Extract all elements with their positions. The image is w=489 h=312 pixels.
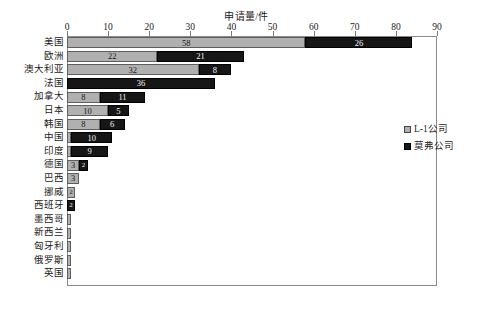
stacked-bar[interactable]: 86: [67, 119, 125, 130]
legend-item[interactable]: 莫弗公司: [404, 139, 454, 153]
bar-segment[interactable]: 36: [67, 78, 215, 89]
black-swatch-icon: [404, 143, 411, 150]
bar-segment[interactable]: [67, 214, 71, 225]
bar-segment[interactable]: 10: [71, 132, 112, 143]
x-tick-label: 50: [268, 22, 278, 32]
stacked-bar[interactable]: 811: [67, 92, 145, 103]
category-label: 英国: [0, 267, 64, 281]
bar-segment[interactable]: 3: [67, 173, 79, 184]
bar-value-label: 32: [129, 66, 138, 75]
bar-segment[interactable]: 3: [67, 160, 79, 171]
category-label: 加拿大: [0, 90, 64, 104]
x-tick-label: 10: [103, 22, 113, 32]
stacked-bar[interactable]: 2: [67, 200, 75, 211]
bar-row: 挪威2: [0, 186, 489, 200]
stacked-bar[interactable]: 3: [67, 173, 79, 184]
bar-value-label: 3: [71, 161, 75, 170]
bar-segment[interactable]: 26: [305, 37, 412, 48]
stacked-bar[interactable]: 328: [67, 64, 231, 75]
stacked-bar[interactable]: 105: [67, 105, 129, 116]
bar-segment[interactable]: [67, 228, 71, 239]
bar-row: 欧洲2221: [0, 50, 489, 64]
bar-segment[interactable]: 11: [100, 92, 145, 103]
bar-segment[interactable]: 5: [108, 105, 129, 116]
category-label: 俄罗斯: [0, 254, 64, 268]
stacked-bar[interactable]: 9: [67, 146, 108, 157]
bar-segment[interactable]: 2: [67, 187, 75, 198]
bar-value-label: 8: [213, 66, 217, 75]
bar-segment[interactable]: 8: [67, 119, 100, 130]
chart-legend: L-1公司 莫弗公司: [404, 122, 454, 156]
x-axis-title: 申请量/件: [0, 8, 489, 23]
stacked-bar[interactable]: [67, 268, 71, 279]
x-tick-label: 60: [309, 22, 319, 32]
x-tick-label: 30: [186, 22, 196, 32]
bar-value-label: 2: [69, 202, 73, 209]
x-axis-title-text: 申请量/件: [224, 11, 268, 22]
legend-item-label: 莫弗公司: [414, 139, 454, 153]
category-label: 韩国: [0, 118, 64, 132]
bar-value-label: 8: [81, 93, 85, 102]
stacked-bar[interactable]: [67, 241, 71, 252]
bar-value-label: 2: [82, 162, 86, 169]
legend-item[interactable]: L-1公司: [404, 122, 454, 136]
bar-value-label: 3: [71, 174, 75, 183]
stacked-bar[interactable]: 5826: [67, 37, 412, 48]
bar-value-label: 36: [137, 79, 146, 88]
bar-row: 日本105: [0, 104, 489, 118]
stacked-bar[interactable]: 36: [67, 78, 215, 89]
category-label: 德国: [0, 158, 64, 172]
category-label: 法国: [0, 77, 64, 91]
x-tick-label: 40: [227, 22, 237, 32]
bar-segment[interactable]: [67, 255, 71, 266]
stacked-bar[interactable]: 2221: [67, 51, 244, 62]
category-label: 日本: [0, 104, 64, 118]
bar-row: 法国36: [0, 77, 489, 91]
bar-value-label: 26: [355, 39, 364, 48]
bar-segment[interactable]: 2: [67, 200, 75, 211]
bar-segment[interactable]: 6: [100, 119, 125, 130]
bar-value-label: 58: [182, 39, 191, 48]
bar-segment[interactable]: 8: [67, 92, 100, 103]
bar-value-label: 22: [108, 52, 117, 61]
stacked-bar[interactable]: 10: [67, 132, 112, 143]
stacked-bar[interactable]: [67, 214, 71, 225]
bar-segment[interactable]: 10: [67, 105, 108, 116]
bar-row: 西班牙2: [0, 199, 489, 213]
bar-segment[interactable]: [67, 241, 71, 252]
category-label: 匈牙利: [0, 240, 64, 254]
bar-value-label: 10: [87, 134, 96, 143]
bar-row: 德国32: [0, 158, 489, 172]
category-label: 澳大利亚: [0, 63, 64, 77]
bar-value-label: 5: [116, 107, 120, 116]
bar-segment[interactable]: 32: [67, 64, 199, 75]
stacked-bar[interactable]: [67, 228, 71, 239]
bar-segment[interactable]: [67, 268, 71, 279]
bar-segment[interactable]: 22: [67, 51, 157, 62]
stacked-bar[interactable]: 32: [67, 160, 88, 171]
bar-row: 加拿大811: [0, 90, 489, 104]
bar-value-label: 6: [110, 120, 114, 129]
bar-row: 匈牙利: [0, 240, 489, 254]
bar-row: 墨西哥: [0, 213, 489, 227]
legend-item-label: L-1公司: [414, 122, 448, 136]
bar-segment[interactable]: 21: [157, 51, 243, 62]
x-tick-label: 0: [65, 22, 70, 32]
category-label: 中国: [0, 131, 64, 145]
bar-segment[interactable]: 2: [79, 160, 87, 171]
bar-value-label: 21: [196, 52, 205, 61]
category-label: 巴西: [0, 172, 64, 186]
bar-segment[interactable]: 9: [71, 146, 108, 157]
bar-row: 英国: [0, 267, 489, 281]
category-label: 新西兰: [0, 226, 64, 240]
bar-segment[interactable]: 8: [199, 64, 232, 75]
bar-segment[interactable]: 58: [67, 37, 305, 48]
category-label: 西班牙: [0, 199, 64, 213]
bar-value-label: 9: [87, 147, 91, 156]
bar-value-label: 8: [81, 120, 85, 129]
bar-row: 俄罗斯: [0, 254, 489, 268]
stacked-bar[interactable]: 2: [67, 187, 75, 198]
stacked-bar[interactable]: [67, 255, 71, 266]
gray-swatch-icon: [404, 126, 411, 133]
category-label: 印度: [0, 145, 64, 159]
